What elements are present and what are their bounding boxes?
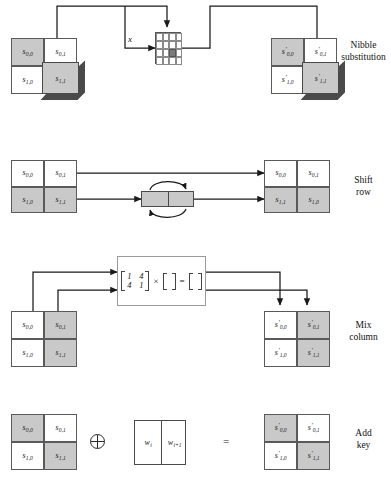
nibble-input-state: s0,0 s0,1 s1,0 s1,1: [11, 38, 77, 94]
state-cell-0-1: s0,1: [297, 160, 330, 187]
cube-bottom-face: [301, 94, 343, 100]
add-key-input-state: s0,0 s0,1 s1,0 s1,1: [11, 414, 77, 470]
mix-column-matrix-box: 1 4 4 1 × =: [117, 256, 206, 306]
state-cell-1-1: s1,1: [44, 339, 77, 367]
times-symbol: ×: [152, 276, 159, 286]
state-cell-1-0: s′1,0: [271, 66, 304, 94]
state-cell-1-0: s1,0: [11, 442, 44, 470]
mix-column-expression: 1 4 4 1 × =: [121, 271, 201, 291]
state-cell-1-0: s′1,0: [264, 339, 297, 367]
cube-right-face: [79, 61, 85, 98]
state-cell-0-0: s0,0: [11, 311, 44, 339]
figure-canvas: s0,0 s0,1 s1,0 s1,1 x: [0, 0, 391, 482]
caption-line-1: Nibble: [336, 40, 391, 52]
equals-symbol: =: [179, 276, 186, 286]
line-mix-out-col1: [206, 290, 307, 305]
state-cell-1-1-cube: s1,1: [42, 62, 79, 94]
sbox-cell-2-3: [176, 49, 183, 57]
state-cell-0-0: s′0,0: [264, 311, 297, 339]
sbox-cell-1-3: [176, 41, 183, 49]
state-cell-1-0: s′1,0: [264, 442, 297, 470]
coefficient-matrix: 1 4 4 1: [124, 271, 146, 291]
state-cell-1-0: s1,0: [11, 339, 44, 367]
state-cell-1-1: s′1,1: [297, 339, 330, 367]
shift-row-input-state: s0,0 s0,1 s1,0 s1,1: [11, 160, 77, 213]
input-column-brackets: [163, 273, 176, 290]
arrow-swap-top: [150, 182, 186, 190]
row-swap-widget: [141, 191, 194, 207]
state-cell-1-0: s1,1: [264, 187, 297, 214]
shift-row-output-state: s0,0 s0,1 s1,1 s1,0: [264, 160, 330, 213]
key-word-i-plus-1: wi+1: [162, 421, 187, 464]
sbox-lookup-table: [155, 32, 181, 64]
state-cell-0-1: s0,1: [44, 311, 77, 339]
stage-caption-add-key: Add key: [336, 428, 391, 452]
cube-right-face: [339, 61, 345, 98]
key-word-i: wi: [135, 421, 161, 464]
state-cell-0-0: s′0,0: [271, 38, 304, 66]
state-cell-1-0: s1,0: [11, 187, 44, 214]
equals-operator: =: [223, 435, 229, 447]
sbox-cell-3-3: [176, 57, 183, 65]
state-cell-1-1: s′1,1: [297, 442, 330, 470]
state-cell-0-0: s0,0: [11, 414, 44, 442]
swap-divider: [168, 192, 169, 206]
round-key-box: wi wi+1: [134, 420, 186, 465]
cube-front-face: s1,1: [42, 62, 79, 94]
state-cell-1-0: s1,0: [11, 66, 44, 94]
state-cell-1-1: s1,1: [44, 187, 77, 214]
caption-line-1: Shift: [336, 175, 391, 187]
state-cell-0-1: s0,1: [44, 414, 77, 442]
stage-caption-mix-column: Mix column: [336, 320, 391, 344]
output-column-brackets: [189, 273, 202, 290]
stage-caption-shift-row: Shift row: [336, 175, 391, 199]
mix-column-output-state: s′0,0 s′0,1 s′1,0 s′1,1: [264, 311, 330, 367]
line-mix-out-col0: [206, 272, 280, 305]
mix-column-input-state: s0,0 s0,1 s1,0 s1,1: [11, 311, 77, 367]
state-cell-1-1: s1,1: [44, 442, 77, 470]
state-cell-0-1: s0,1: [44, 160, 77, 187]
line-mix-col1-in: [58, 290, 117, 311]
arrow-swap-bottom: [150, 209, 186, 217]
state-cell-0-0: s′0,0: [264, 414, 297, 442]
xor-operator-icon: [90, 434, 105, 449]
state-cell-1-1: s1,0: [297, 187, 330, 214]
caption-line-2: row: [336, 187, 391, 199]
state-cell-0-0: s0,0: [11, 38, 44, 66]
nibble-output-state: s′0,0 s′0,1 s′1,0 s′1,1: [271, 38, 337, 94]
sbox-input-label: x: [128, 34, 132, 44]
matrix-entry-1-0: 4: [126, 281, 132, 290]
caption-line-1: Mix: [336, 320, 391, 332]
sbox-cell-0-3: [176, 33, 183, 41]
caption-line-1: Add: [336, 428, 391, 440]
add-key-output-state: s′0,0 s′0,1 s′1,0 s′1,1: [264, 414, 330, 470]
matrix-entry-1-1: 1: [138, 281, 144, 290]
coefficient-matrix-brackets: 1 4 4 1: [121, 271, 149, 291]
line-mix-col0-in: [33, 272, 117, 311]
state-cell-0-0: s0,0: [11, 160, 44, 187]
cube-front-face: s′1,1: [302, 62, 339, 94]
state-cell-0-0: s0,0: [264, 160, 297, 187]
caption-line-2: key: [336, 440, 391, 452]
state-cell-0-1: s′0,1: [297, 311, 330, 339]
state-cell-1-1-cube: s′1,1: [302, 62, 339, 94]
caption-line-2: column: [336, 332, 391, 344]
state-cell-0-1: s′0,1: [297, 414, 330, 442]
cube-bottom-face: [41, 94, 83, 100]
